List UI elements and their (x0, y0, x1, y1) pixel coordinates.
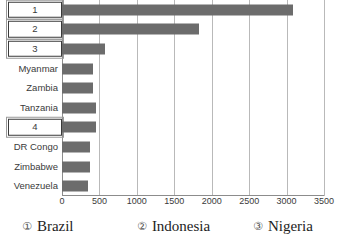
category-label-3: 3 (8, 41, 62, 58)
bar-myanmar (62, 63, 93, 74)
category-label-2: 2 (8, 21, 62, 38)
bar-1 (62, 4, 293, 15)
bar-rows: 123MyanmarZambiaTanzania4DR CongoZimbabw… (0, 0, 340, 196)
x-tick-label-2000: 2000 (202, 197, 222, 206)
chart-row: Zimbabwe (0, 157, 340, 177)
chart-row: 2 (0, 20, 340, 40)
bar-zambia (62, 83, 93, 94)
chart-row: 4 (0, 118, 340, 138)
category-label-zambia: Zambia (26, 83, 58, 93)
bar-zimbabwe (62, 161, 90, 172)
legend-label-indonesia: Indonesia (152, 219, 210, 234)
chart-row: Zambia (0, 78, 340, 98)
x-axis-tick-labels: 0500100015002000250030003500 (62, 197, 324, 211)
x-tick-label-500: 500 (92, 197, 107, 206)
circled-number-2-icon: ② (137, 221, 147, 232)
chart-row: Myanmar (0, 59, 340, 79)
legend-label-brazil: Brazil (37, 219, 74, 234)
chart-row: 3 (0, 39, 340, 59)
chart-row: 1 (0, 0, 340, 20)
chart-legend: ① Brazil ② Indonesia ③ Nigeria (0, 219, 340, 241)
category-label-1: 1 (8, 2, 62, 19)
bar-dr-congo (62, 141, 90, 152)
legend-item-nigeria: ③ Nigeria (253, 219, 313, 234)
chart-row: Tanzania (0, 98, 340, 118)
legend-label-nigeria: Nigeria (268, 219, 313, 234)
bar-tanzania (62, 102, 96, 113)
bar-3 (62, 43, 105, 54)
x-tick-label-0: 0 (59, 197, 64, 206)
category-label-4: 4 (8, 119, 62, 136)
bar-2 (62, 24, 199, 35)
x-tick-label-3500: 3500 (314, 197, 334, 206)
category-label-zimbabwe: Zimbabwe (14, 162, 58, 172)
bar-chart: 123MyanmarZambiaTanzania4DR CongoZimbabw… (0, 0, 340, 241)
category-label-venezuela: Venezuela (14, 181, 58, 191)
category-label-myanmar: Myanmar (18, 64, 58, 74)
bar-venezuela (62, 181, 88, 192)
circled-number-3-icon: ③ (253, 221, 263, 232)
chart-row: DR Congo (0, 137, 340, 157)
chart-row: Venezuela (0, 176, 340, 196)
circled-number-1-icon: ① (22, 221, 32, 232)
x-tick-label-3000: 3000 (277, 197, 297, 206)
category-label-tanzania: Tanzania (20, 103, 58, 113)
x-tick-label-1000: 1000 (127, 197, 147, 206)
legend-item-indonesia: ② Indonesia (137, 219, 210, 234)
x-tick-label-2500: 2500 (239, 197, 259, 206)
x-tick-label-1500: 1500 (164, 197, 184, 206)
plot-area: 123MyanmarZambiaTanzania4DR CongoZimbabw… (0, 0, 340, 196)
bar-4 (62, 122, 96, 133)
legend-item-brazil: ① Brazil (22, 219, 74, 234)
category-label-dr-congo: DR Congo (14, 142, 58, 152)
